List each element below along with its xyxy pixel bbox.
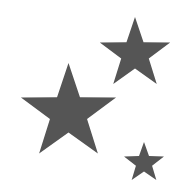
small-star-icon bbox=[124, 142, 164, 180]
star-illustration bbox=[0, 0, 183, 192]
medium-star-icon bbox=[100, 17, 170, 84]
stars-graphic bbox=[0, 0, 183, 192]
large-star-icon bbox=[21, 63, 116, 153]
